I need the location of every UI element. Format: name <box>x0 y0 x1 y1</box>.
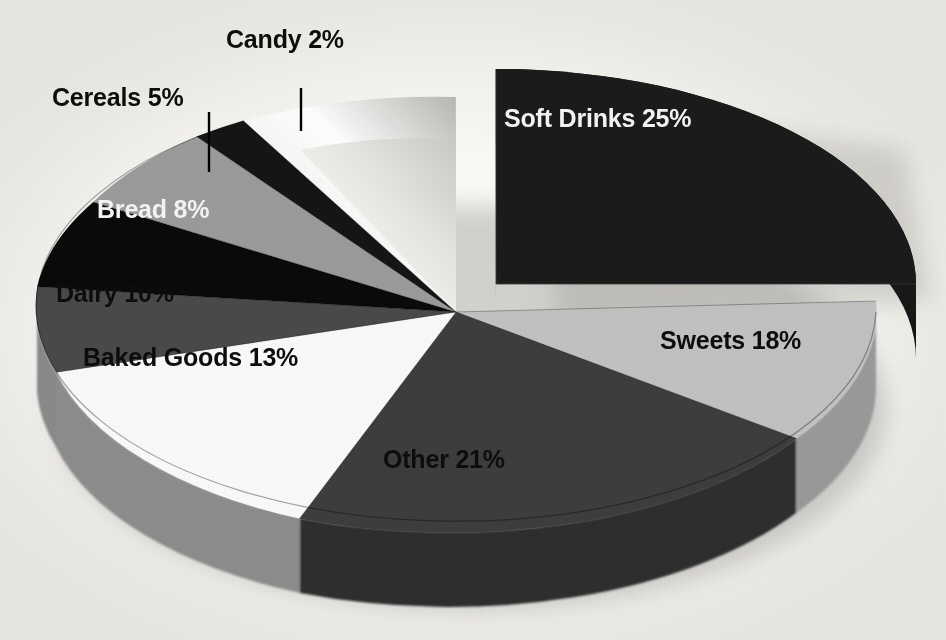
pie-chart-figure: Candy 2% Cereals 5% Bread 8% Dairy 10% B… <box>0 0 946 640</box>
slice-label-cereals: Cereals 5% <box>52 85 183 110</box>
slice-label-dairy: Dairy 10% <box>56 281 174 306</box>
slice-label-candy: Candy 2% <box>226 27 344 52</box>
slice-label-soft-drinks: Soft Drinks 25% <box>504 106 691 131</box>
slice-label-baked-goods: Baked Goods 13% <box>83 345 298 370</box>
slice-label-other: Other 21% <box>383 447 505 472</box>
slice-label-sweets: Sweets 18% <box>660 328 801 353</box>
slice-soft-drinks[interactable] <box>496 69 916 284</box>
slice-label-bread: Bread 8% <box>97 197 209 222</box>
